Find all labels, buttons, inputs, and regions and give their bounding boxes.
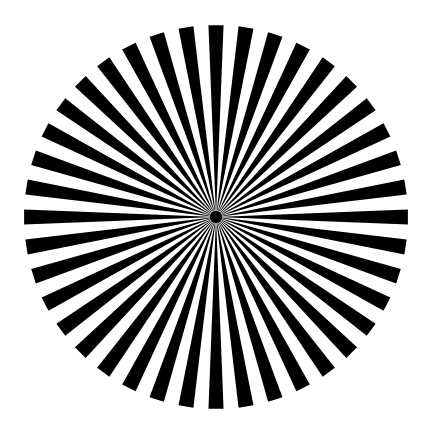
siemens-star-pattern — [0, 0, 431, 433]
center-hub — [210, 211, 222, 223]
